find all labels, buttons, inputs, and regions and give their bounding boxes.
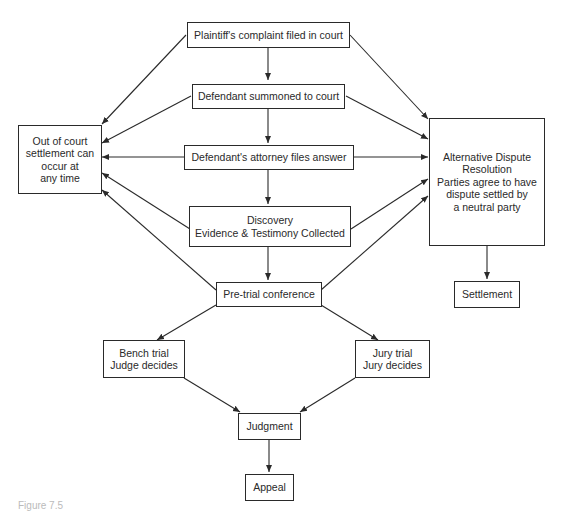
node-text: Alternative Dispute	[443, 151, 531, 164]
node-text: settlement can	[26, 147, 94, 160]
node-text: Plaintiff's complaint filed in court	[194, 29, 343, 42]
node-text: occur at	[41, 160, 78, 173]
node-judgment: Judgment	[238, 413, 301, 440]
node-text: Jury decides	[363, 359, 422, 372]
node-out-of-court-settlement: Out of court settlement can occur at any…	[18, 125, 102, 194]
node-bench-trial: Bench trial Judge decides	[103, 340, 185, 378]
node-text: Out of court	[33, 135, 88, 148]
node-settlement: Settlement	[454, 281, 520, 308]
node-text: a neutral party	[453, 201, 520, 214]
node-appeal: Appeal	[245, 474, 294, 501]
node-defendant-summoned: Defendant summoned to court	[192, 84, 345, 109]
node-text: Evidence & Testimony Collected	[195, 227, 345, 240]
node-pretrial-conference: Pre-trial conference	[216, 282, 322, 307]
node-text: Appeal	[253, 481, 286, 494]
node-discovery: Discovery Evidence & Testimony Collected	[189, 206, 351, 247]
node-text: Resolution	[462, 163, 512, 176]
node-attorney-answer: Defendant's attorney files answer	[184, 145, 354, 170]
node-text: any time	[40, 172, 80, 185]
node-text: Judge decides	[110, 359, 178, 372]
node-complaint: Plaintiff's complaint filed in court	[187, 22, 350, 48]
node-text: Settlement	[462, 288, 512, 301]
node-alternative-dispute-resolution: Alternative Dispute Resolution Parties a…	[429, 118, 545, 246]
node-text: dispute settled by	[446, 188, 528, 201]
node-jury-trial: Jury trial Jury decides	[355, 340, 430, 378]
figure-caption: Figure 7.5	[18, 500, 63, 511]
node-text: Bench trial	[119, 347, 169, 360]
node-text: Pre-trial conference	[223, 288, 315, 301]
node-text: Discovery	[247, 214, 293, 227]
node-text: Jury trial	[373, 347, 413, 360]
node-text: Defendant's attorney files answer	[192, 151, 347, 164]
node-text: Judgment	[246, 420, 292, 433]
node-text: Defendant summoned to court	[198, 90, 339, 103]
node-text: Parties agree to have	[437, 176, 537, 189]
